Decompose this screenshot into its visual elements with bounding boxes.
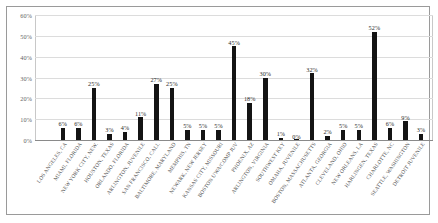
y-axis-tick-label: 0% [24, 137, 32, 144]
bar-value-label: 2% [323, 128, 331, 135]
bar-slot[interactable]: 6% [55, 15, 71, 140]
bar-slot[interactable]: 2% [320, 15, 336, 140]
bar-value-label: 0% [292, 133, 300, 140]
x-axis-labels: LOS ANGELES, CAMIAMI, FLORIDANEW YORK CI… [35, 141, 433, 219]
x-axis-labels-inner: LOS ANGELES, CAMIAMI, FLORIDANEW YORK CI… [55, 141, 429, 219]
y-axis-tick-label: 50% [20, 32, 32, 39]
bar-slot[interactable]: 9% [398, 15, 414, 140]
bar-value-label: 1% [277, 130, 285, 137]
screenshot-root: 0%10%20%30%40%50%60% 6%6%25%3%4%11%27%25… [0, 0, 438, 223]
bar[interactable] [123, 132, 128, 140]
x-axis-label-slot: DETROIT JUVENILE [413, 141, 429, 219]
bar[interactable] [247, 103, 252, 141]
bar-slot[interactable]: 25% [164, 15, 180, 140]
bar-slot[interactable]: 25% [86, 15, 102, 140]
bar-value-label: 45% [228, 39, 240, 46]
bar-slot[interactable]: 6% [382, 15, 398, 140]
y-axis-tick-label: 10% [20, 116, 32, 123]
bar-value-label: 5% [214, 122, 222, 129]
bar[interactable] [201, 130, 206, 140]
bar-slot[interactable]: 32% [304, 15, 320, 140]
bar-value-label: 9% [401, 114, 409, 121]
bar[interactable] [92, 88, 97, 140]
bar-slot[interactable]: 11% [133, 15, 149, 140]
bar-value-label: 3% [105, 126, 113, 133]
bar-value-label: 25% [166, 80, 178, 87]
bar[interactable] [419, 134, 424, 140]
bar-slot[interactable]: 5% [211, 15, 227, 140]
bar-slot[interactable]: 5% [335, 15, 351, 140]
bar-value-label: 3% [417, 126, 425, 133]
bar[interactable] [232, 46, 237, 140]
bar[interactable] [263, 78, 268, 141]
bar-slot[interactable]: 6% [71, 15, 87, 140]
bar-value-label: 5% [339, 122, 347, 129]
bar-value-label: 4% [121, 124, 129, 131]
bar-slot[interactable]: 3% [413, 15, 429, 140]
bar-series: 6%6%25%3%4%11%27%25%5%5%5%45%18%30%1%0%3… [55, 15, 429, 140]
bar[interactable] [107, 134, 112, 140]
bar-slot[interactable]: 27% [148, 15, 164, 140]
bar-slot[interactable]: 45% [226, 15, 242, 140]
bar-slot[interactable]: 18% [242, 15, 258, 140]
bar[interactable] [170, 88, 175, 140]
bar[interactable] [341, 130, 346, 140]
bar[interactable] [372, 32, 377, 140]
bar-slot[interactable]: 0% [289, 15, 305, 140]
bar-slot[interactable]: 5% [351, 15, 367, 140]
y-axis-tick-label: 40% [20, 53, 32, 60]
bar-slot[interactable]: 5% [180, 15, 196, 140]
bar[interactable] [279, 138, 284, 140]
bar-slot[interactable]: 30% [258, 15, 274, 140]
bar-slot[interactable]: 5% [195, 15, 211, 140]
bar[interactable] [138, 117, 143, 140]
bar-value-label: 5% [199, 122, 207, 129]
y-axis-tick-label: 20% [20, 95, 32, 102]
plot-area: 0%10%20%30%40%50%60% 6%6%25%3%4%11%27%25… [35, 15, 433, 140]
bar[interactable] [357, 130, 362, 140]
bar-value-label: 30% [259, 70, 271, 77]
bar[interactable] [216, 130, 221, 140]
bar[interactable] [310, 73, 315, 140]
bar-value-label: 27% [150, 76, 162, 83]
y-axis-tick-label: 30% [20, 74, 32, 81]
bar-value-label: 18% [244, 95, 256, 102]
bar[interactable] [388, 128, 393, 141]
bar[interactable] [325, 136, 330, 140]
bar-slot[interactable]: 1% [273, 15, 289, 140]
bar-value-label: 52% [369, 24, 381, 31]
bar[interactable] [185, 130, 190, 140]
y-axis-tick-label: 60% [20, 12, 32, 19]
bar-value-label: 6% [59, 120, 67, 127]
bar[interactable] [76, 128, 81, 141]
bar-value-label: 11% [135, 110, 146, 117]
bar[interactable] [403, 121, 408, 140]
bar-value-label: 6% [386, 120, 394, 127]
bar-value-label: 25% [88, 80, 100, 87]
bar[interactable] [154, 84, 159, 140]
bar-value-label: 6% [74, 120, 82, 127]
bar-value-label: 5% [183, 122, 191, 129]
bar[interactable] [61, 128, 66, 141]
bar-value-label: 32% [306, 66, 318, 73]
chart-image-frame: 0%10%20%30%40%50%60% 6%6%25%3%4%11%27%25… [6, 6, 430, 215]
bar-value-label: 5% [355, 122, 363, 129]
bar-slot[interactable]: 3% [102, 15, 118, 140]
bar-slot[interactable]: 52% [367, 15, 383, 140]
bar-slot[interactable]: 4% [117, 15, 133, 140]
